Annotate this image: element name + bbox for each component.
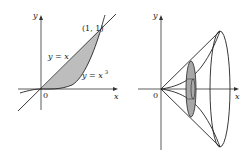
line-label: y = x (47, 52, 69, 61)
origin-label: 0 (43, 91, 48, 100)
x-axis-label: x (235, 92, 240, 101)
left-figure: y x 0 (1, 1) y = x y = x 3 (18, 11, 119, 111)
cubic-exponent: 3 (105, 69, 108, 75)
y-axis-arrow-icon (159, 15, 163, 20)
cubic-label: y = x (81, 71, 103, 80)
y-axis-label: y (152, 11, 158, 20)
y-axis-label: y (32, 11, 38, 20)
x-axis-label: x (114, 92, 119, 101)
point-label: (1, 1) (82, 24, 104, 33)
right-figure: y x 0 (138, 11, 240, 150)
figure-canvas: y x 0 (1, 1) y = x y = x 3 y x 0 (0, 0, 245, 160)
origin-label: 0 (153, 91, 158, 100)
x-axis-arrow-icon (234, 87, 239, 91)
x-axis-arrow-icon (113, 87, 118, 91)
y-axis-arrow-icon (39, 15, 43, 20)
